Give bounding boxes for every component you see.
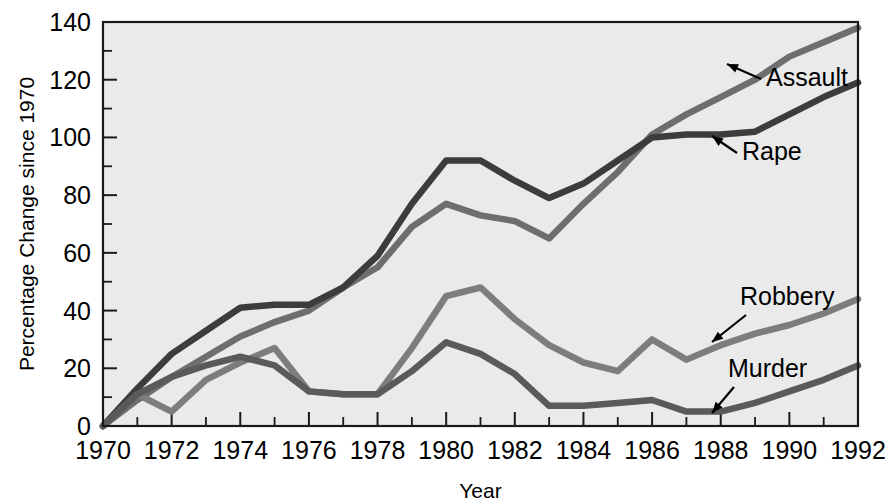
line-chart: 020406080100120140 197019721974197619781… (0, 0, 893, 503)
y-tick-label: 140 (49, 8, 91, 36)
annotation-label-rape: Rape (742, 137, 802, 165)
annotation-label-robbery: Robbery (740, 282, 835, 310)
y-tick-label: 100 (49, 123, 91, 151)
x-tick-label: 1976 (281, 436, 337, 464)
x-tick-label: 1978 (350, 436, 406, 464)
x-tick-label: 1980 (418, 436, 474, 464)
x-tick-label: 1974 (212, 436, 268, 464)
y-tick-label: 120 (49, 66, 91, 94)
x-tick-label: 1990 (762, 436, 818, 464)
chart-container: 020406080100120140 197019721974197619781… (0, 0, 893, 503)
x-tick-label: 1982 (487, 436, 543, 464)
y-tick-label: 80 (63, 181, 91, 209)
x-tick-label: 1970 (75, 436, 131, 464)
x-tick-label: 1992 (830, 436, 886, 464)
annotation-label-murder: Murder (728, 354, 807, 382)
y-tick-label: 40 (63, 297, 91, 325)
x-tick-label: 1988 (693, 436, 749, 464)
x-tick-label: 1986 (624, 436, 680, 464)
x-axis-title: Year (459, 479, 501, 502)
y-tick-label: 20 (63, 354, 91, 382)
y-axis-title: Percentage Change since 1970 (15, 77, 38, 371)
y-tick-label: 60 (63, 239, 91, 267)
annotation-label-assault: Assault (766, 63, 848, 91)
x-tick-label: 1984 (556, 436, 612, 464)
x-tick-label: 1972 (144, 436, 200, 464)
